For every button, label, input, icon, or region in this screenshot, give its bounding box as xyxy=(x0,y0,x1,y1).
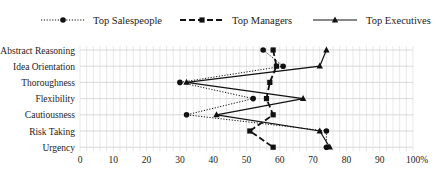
chart: Top SalespeopleTop ManagersTop Executive… xyxy=(0,0,439,179)
x-axis-labels: 0102030405060708090100% xyxy=(78,155,429,165)
line-chart: Top SalespeopleTop ManagersTop Executive… xyxy=(0,0,439,179)
circle-marker xyxy=(324,128,330,134)
legend-item: Top Salespeople xyxy=(41,15,162,26)
circle-marker xyxy=(260,47,266,53)
triangle-marker xyxy=(317,63,323,69)
x-tick-label: 40 xyxy=(208,155,218,165)
category-label: Urgency xyxy=(42,143,75,153)
circle-marker xyxy=(280,63,286,69)
square-marker xyxy=(271,47,276,52)
circle-marker xyxy=(177,80,183,86)
square-marker xyxy=(247,128,252,133)
square-marker xyxy=(264,96,269,101)
x-tick-label: 70 xyxy=(308,155,318,165)
legend-label: Top Salespeople xyxy=(93,15,162,26)
category-label: Idea Orientation xyxy=(13,62,75,72)
x-tick-label: 0 xyxy=(78,155,83,165)
x-tick-label: 20 xyxy=(142,155,152,165)
legend-label: Top Executives xyxy=(366,15,431,26)
legend-label: Top Managers xyxy=(232,15,292,26)
square-marker xyxy=(274,64,279,69)
x-tick-label: 30 xyxy=(175,155,185,165)
series-top-executives xyxy=(183,46,333,149)
x-tick-label: 10 xyxy=(109,155,119,165)
legend-circle-marker xyxy=(60,17,66,23)
circle-marker xyxy=(184,112,190,118)
legend-item: Top Executives xyxy=(313,15,431,26)
category-label: Abstract Reasoning xyxy=(0,46,75,56)
circle-marker xyxy=(250,96,256,102)
triangle-marker xyxy=(323,46,329,52)
x-tick-label: 60 xyxy=(275,155,285,165)
legend-item: Top Managers xyxy=(180,15,292,26)
category-label: Flexibility xyxy=(35,94,75,104)
category-label: Risk Taking xyxy=(29,127,75,137)
square-marker xyxy=(267,80,272,85)
legend: Top SalespeopleTop ManagersTop Executive… xyxy=(41,15,431,26)
x-tick-label: 100% xyxy=(406,155,428,165)
x-tick-label: 90 xyxy=(375,155,385,165)
grid xyxy=(80,46,413,151)
square-marker xyxy=(271,112,276,117)
legend-square-marker xyxy=(199,17,204,22)
category-label: Cautiousness xyxy=(25,110,75,120)
x-tick-label: 50 xyxy=(242,155,252,165)
category-labels: Abstract ReasoningIdea OrientationThorou… xyxy=(0,46,75,153)
x-tick-label: 80 xyxy=(342,155,352,165)
category-label: Thoroughness xyxy=(21,78,75,88)
square-marker xyxy=(271,145,276,150)
